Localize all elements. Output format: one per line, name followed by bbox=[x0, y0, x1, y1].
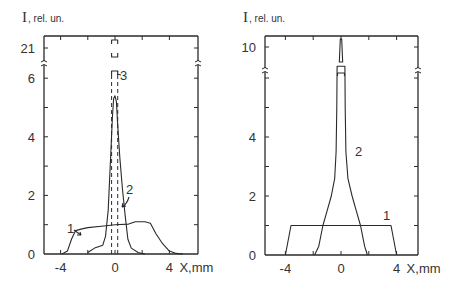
x-tick-label: 4 bbox=[393, 261, 400, 276]
series-1-line bbox=[285, 226, 396, 256]
axis-break-mark bbox=[41, 61, 47, 63]
x-axis-label: X,mm bbox=[179, 260, 213, 275]
figure: I, rel. un.210246-404X,mm213I, rel. un.1… bbox=[0, 0, 455, 284]
x-tick-label: 0 bbox=[337, 261, 344, 276]
axis-break-mark bbox=[415, 68, 421, 70]
series-2-line bbox=[315, 66, 368, 255]
series-2-break-cap bbox=[338, 73, 345, 76]
y-axis-label: I bbox=[243, 9, 248, 25]
series-2-peak-top bbox=[339, 39, 342, 62]
panel-left: I, rel. un.210246-404X,mm213 bbox=[21, 9, 214, 275]
y-tick-label: 4 bbox=[249, 130, 256, 145]
series-label-1: 1 bbox=[383, 208, 390, 223]
x-tick-label: 4 bbox=[166, 260, 173, 275]
series-3-upper-u bbox=[112, 53, 118, 57]
series-label-3: 3 bbox=[120, 68, 127, 83]
y-tick-label: 10 bbox=[242, 40, 256, 55]
series-1-line bbox=[62, 222, 183, 254]
y-tick-label: 0 bbox=[28, 247, 35, 262]
series-3-cap bbox=[112, 71, 118, 75]
y-axis-unit: , rel. un. bbox=[249, 13, 285, 24]
axis-break-mark bbox=[262, 68, 268, 70]
y-tick-label: 2 bbox=[249, 189, 256, 204]
x-tick-label: 0 bbox=[111, 260, 118, 275]
series-2-line bbox=[88, 96, 145, 254]
series-3-upper-top bbox=[112, 40, 118, 44]
y-tick-label: 21 bbox=[21, 41, 35, 56]
series-label-1: 1 bbox=[67, 221, 74, 236]
y-axis-unit: , rel. un. bbox=[28, 13, 64, 24]
y-tick-label: 6 bbox=[28, 71, 35, 86]
y-axis-label: I bbox=[22, 9, 27, 25]
y-tick-label: 0 bbox=[249, 248, 256, 263]
series-label-2: 2 bbox=[126, 182, 133, 197]
x-tick-label: -4 bbox=[55, 260, 67, 275]
axis-break-mark bbox=[195, 61, 201, 63]
panel-right: I, rel. un.10024-404X,mm21 bbox=[242, 9, 441, 276]
x-axis-label: X,mm bbox=[407, 261, 441, 276]
y-tick-label: 4 bbox=[28, 130, 35, 145]
x-tick-label: -4 bbox=[280, 261, 292, 276]
series-label-2: 2 bbox=[355, 144, 362, 159]
y-tick-label: 2 bbox=[28, 188, 35, 203]
